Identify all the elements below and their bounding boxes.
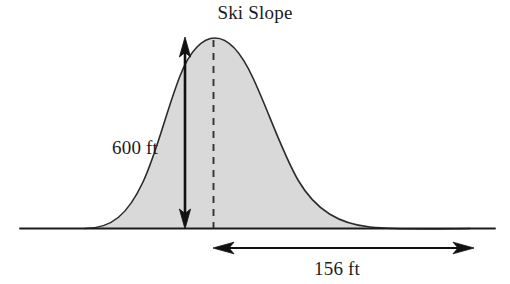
height-measurement-label: 600 ft	[112, 138, 158, 157]
width-measurement-label: 156 ft	[314, 259, 360, 278]
hill-area	[85, 38, 470, 229]
ski-slope-figure: Ski Slope 600 ft 156 ft	[0, 0, 510, 284]
figure-title: Ski Slope	[0, 3, 510, 22]
width-dimension-arrow	[213, 242, 474, 254]
ski-slope-diagram	[0, 0, 510, 284]
